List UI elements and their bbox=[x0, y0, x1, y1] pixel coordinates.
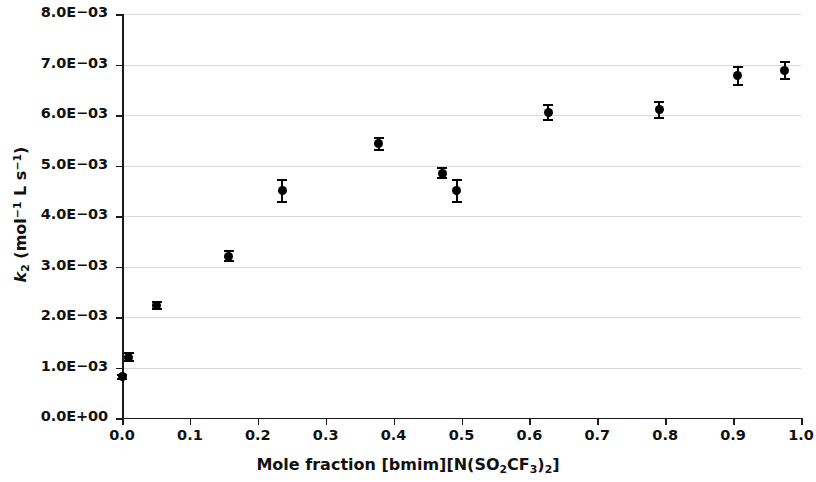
x-tick-mark bbox=[394, 418, 396, 425]
error-bar-cap-top bbox=[452, 179, 462, 181]
x-tick-label: 0.5 bbox=[449, 427, 475, 443]
error-bar-cap-bottom bbox=[277, 201, 287, 203]
data-marker bbox=[374, 139, 383, 148]
y-tick-label: 8.0E−03 bbox=[0, 4, 108, 20]
y-tick-label: 1.0E−03 bbox=[0, 358, 108, 374]
error-bar-cap-bottom bbox=[374, 149, 384, 151]
x-tick-label: 0.4 bbox=[381, 427, 407, 443]
error-bar-cap-bottom bbox=[654, 117, 664, 119]
error-bar-cap-top bbox=[654, 101, 664, 103]
x-tick-label: 1.0 bbox=[788, 427, 814, 443]
y-tick-label: 7.0E−03 bbox=[0, 55, 108, 71]
x-tick-label: 0.6 bbox=[517, 427, 543, 443]
data-marker bbox=[780, 66, 789, 75]
data-marker bbox=[733, 71, 742, 80]
x-tick-mark bbox=[326, 418, 328, 425]
x-axis-title-mid: CF bbox=[507, 455, 530, 474]
error-bar-cap-bottom bbox=[780, 78, 790, 80]
x-tick-mark bbox=[529, 418, 531, 425]
data-marker bbox=[224, 252, 233, 261]
error-bar-cap-bottom bbox=[733, 84, 743, 86]
x-tick-mark bbox=[597, 418, 599, 425]
x-tick-mark bbox=[801, 418, 803, 425]
error-bar-cap-top bbox=[780, 61, 790, 63]
x-axis-title-sub1: 2 bbox=[500, 463, 508, 476]
x-tick-mark bbox=[733, 418, 735, 425]
x-tick-label: 0.9 bbox=[720, 427, 746, 443]
x-tick-label: 0.2 bbox=[245, 427, 271, 443]
x-axis-title-lead: Mole fraction [bmim][N(SO bbox=[256, 455, 499, 474]
data-marker bbox=[152, 301, 161, 310]
y-axis-symbol-sub: 2 bbox=[20, 265, 33, 273]
x-tick-label: 0.1 bbox=[177, 427, 203, 443]
y-axis-unit-sup2: −1 bbox=[12, 154, 25, 171]
x-axis-title: Mole fraction [bmim][N(SO2CF3)2] bbox=[0, 455, 816, 476]
x-tick-mark bbox=[258, 418, 260, 425]
y-axis-unit-close: ) bbox=[11, 147, 30, 154]
x-axis-title-close2: ] bbox=[552, 455, 559, 474]
x-tick-label: 0.0 bbox=[109, 427, 135, 443]
x-axis-title-close1: ) bbox=[537, 455, 544, 474]
y-axis-symbol: k bbox=[11, 272, 30, 283]
x-tick-mark bbox=[190, 418, 192, 425]
data-marker bbox=[118, 372, 127, 381]
data-marker bbox=[452, 186, 461, 195]
error-bar-cap-top bbox=[733, 66, 743, 68]
y-tick-label: 0.0E+00 bbox=[0, 408, 108, 424]
x-tick-mark bbox=[122, 418, 124, 425]
error-bar-cap-top bbox=[277, 179, 287, 181]
y-axis-title: k2 (mol−1 L s−1) bbox=[4, 120, 40, 310]
data-marker bbox=[438, 169, 447, 178]
data-marker bbox=[544, 108, 553, 117]
x-tick-mark bbox=[665, 418, 667, 425]
x-tick-label: 0.8 bbox=[652, 427, 678, 443]
plot-area bbox=[122, 14, 801, 418]
y-axis-title-text: k2 (mol−1 L s−1) bbox=[11, 147, 32, 283]
y-axis-unit-sup1: −1 bbox=[12, 202, 25, 219]
x-tick-mark bbox=[462, 418, 464, 425]
chart-figure: 0.0E+001.0E−032.0E−033.0E−034.0E−035.0E−… bbox=[0, 0, 816, 482]
data-marker bbox=[655, 105, 664, 114]
y-axis-unit-open: (mol bbox=[11, 219, 30, 265]
error-bar-cap-bottom bbox=[543, 119, 553, 121]
y-axis-unit-mid: L s bbox=[11, 171, 30, 202]
data-marker bbox=[278, 186, 287, 195]
y-tick-label: 6.0E−03 bbox=[0, 105, 108, 121]
x-tick-label: 0.3 bbox=[313, 427, 339, 443]
x-tick-label: 0.7 bbox=[584, 427, 610, 443]
error-bar-cap-bottom bbox=[452, 201, 462, 203]
error-bar-cap-top bbox=[543, 104, 553, 106]
